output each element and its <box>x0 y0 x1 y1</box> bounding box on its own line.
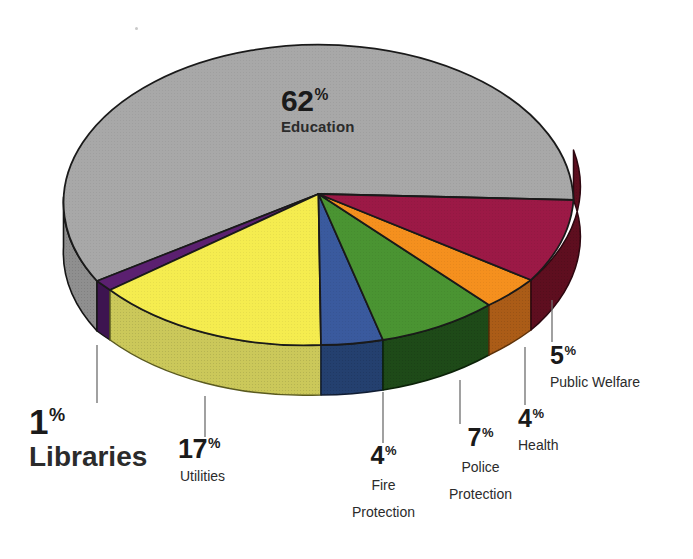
percent-symbol: % <box>532 406 544 421</box>
slice-name-police-protection-line2: Protection <box>449 484 512 504</box>
slice-name-fire-protection-line2: Protection <box>352 502 415 522</box>
slice-label-public-welfare: 5% Public Welfare <box>550 343 640 389</box>
pie-chart-figure: 62% Education 1% Libraries 17% Utilities… <box>0 0 693 559</box>
slice-name-fire-protection-line1: Fire <box>352 475 415 495</box>
slice-percent-police-protection: 7% <box>468 423 494 451</box>
slice-name-public-welfare: Public Welfare <box>550 375 640 389</box>
side-wall-libraries <box>97 281 110 340</box>
percent-symbol: % <box>482 425 494 440</box>
slice-name-libraries: Libraries <box>29 443 147 471</box>
percent-symbol: % <box>208 435 220 451</box>
side-wall-fire-shade <box>321 340 383 395</box>
pie-chart-graphic <box>0 0 693 559</box>
percent-symbol: % <box>385 443 397 458</box>
slice-label-education: 62% Education <box>281 86 354 134</box>
slice-name-police-protection-line1: Police <box>449 457 512 477</box>
slice-label-fire-protection: 4% Fire Protection <box>352 443 415 523</box>
slice-name-utilities: Utilities <box>178 469 225 483</box>
slice-label-police-protection: 7% Police Protection <box>449 425 512 505</box>
slice-name-health: Health <box>518 438 558 452</box>
slice-percent-utilities: 17% <box>178 434 221 464</box>
slice-percent-education: 62% <box>281 84 328 117</box>
slice-label-libraries: 1% Libraries <box>29 404 147 471</box>
percent-symbol: % <box>314 86 328 103</box>
slice-percent-public-welfare: 5% <box>550 341 576 369</box>
slice-percent-fire-protection: 4% <box>371 441 397 469</box>
slice-name-education: Education <box>281 119 354 134</box>
slice-label-health: 4% Health <box>518 406 558 452</box>
slice-label-utilities: 17% Utilities <box>178 436 225 483</box>
slice-percent-libraries: 1% <box>29 402 65 441</box>
slice-percent-health: 4% <box>518 404 544 432</box>
percent-symbol: % <box>49 405 65 425</box>
percent-symbol: % <box>564 343 576 358</box>
